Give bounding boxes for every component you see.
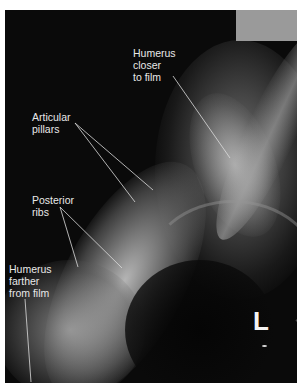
label-humerus-farther: Humerus farther from film [9,263,52,299]
leader-articular-pillars-2 [75,123,135,202]
radiograph-image: Humerus closer to film Articular pillars… [5,10,297,383]
leader-humerus-closer [173,76,230,158]
label-humerus-closer: Humerus closer to film [133,47,176,83]
side-marker-L: L [253,308,269,334]
small-artifact [262,345,267,347]
leader-articular-pillars-1 [75,123,153,190]
label-articular-pillars: Articular pillars [32,111,71,135]
leader-humerus-farther [25,299,31,382]
label-posterior-ribs: Posterior ribs [32,194,74,218]
